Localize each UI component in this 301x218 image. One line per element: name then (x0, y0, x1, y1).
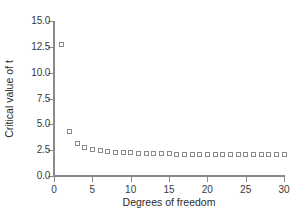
data-point-marker (197, 152, 202, 157)
data-point-marker (274, 152, 279, 157)
data-point-marker (82, 145, 87, 150)
x-axis-tick (207, 176, 208, 182)
chart-figure: 051015202530 Critical value of t Degrees… (0, 0, 301, 218)
y-axis-tick-label: 15.0 (6, 15, 50, 26)
data-point-marker (243, 152, 248, 157)
x-axis-tick (284, 176, 285, 182)
x-axis-tick-label: 25 (231, 184, 261, 195)
data-point-marker (136, 151, 141, 156)
data-point-marker (282, 152, 287, 157)
data-point-marker (144, 151, 149, 156)
data-point-marker (251, 152, 256, 157)
data-point-marker (128, 150, 133, 155)
x-axis-tick (169, 176, 170, 182)
data-point-marker (121, 150, 126, 155)
y-axis-tick-label: 2.5 (6, 144, 50, 155)
x-axis-tick-label: 0 (39, 184, 69, 195)
data-point-marker (167, 151, 172, 156)
data-point-marker (59, 42, 64, 47)
data-point-marker (228, 152, 233, 157)
data-point-marker (213, 152, 218, 157)
data-point-marker (159, 151, 164, 156)
data-point-marker (98, 148, 103, 153)
x-axis-tick (92, 176, 93, 182)
plot-area: 051015202530 (54, 21, 284, 176)
x-axis-tick-label: 30 (269, 184, 299, 195)
x-axis-tick-label: 10 (116, 184, 146, 195)
x-axis-tick (246, 176, 247, 182)
x-axis-tick (131, 176, 132, 182)
data-point-marker (67, 129, 72, 134)
data-point-marker (90, 147, 95, 152)
data-point-marker (105, 149, 110, 154)
x-axis-tick-label: 5 (77, 184, 107, 195)
y-axis-tick-label: 0.0 (6, 170, 50, 181)
x-axis-tick (54, 176, 55, 182)
data-point-marker (205, 152, 210, 157)
data-point-marker (182, 152, 187, 157)
x-axis-title: Degrees of freedom (54, 196, 284, 208)
data-point-marker (236, 152, 241, 157)
x-axis-tick-label: 20 (192, 184, 222, 195)
data-point-marker (75, 141, 80, 146)
data-point-marker (220, 152, 225, 157)
data-point-marker (151, 151, 156, 156)
y-axis-tick-label: 5.0 (6, 118, 50, 129)
data-point-marker (174, 152, 179, 157)
y-axis-tick-label: 12.5 (6, 41, 50, 52)
data-point-marker (266, 152, 271, 157)
x-axis-tick-label: 15 (154, 184, 184, 195)
data-point-marker (113, 150, 118, 155)
y-axis-tick-label: 7.5 (6, 93, 50, 104)
data-point-marker (190, 152, 195, 157)
y-axis-tick-label: 10.0 (6, 67, 50, 78)
data-point-marker (259, 152, 264, 157)
